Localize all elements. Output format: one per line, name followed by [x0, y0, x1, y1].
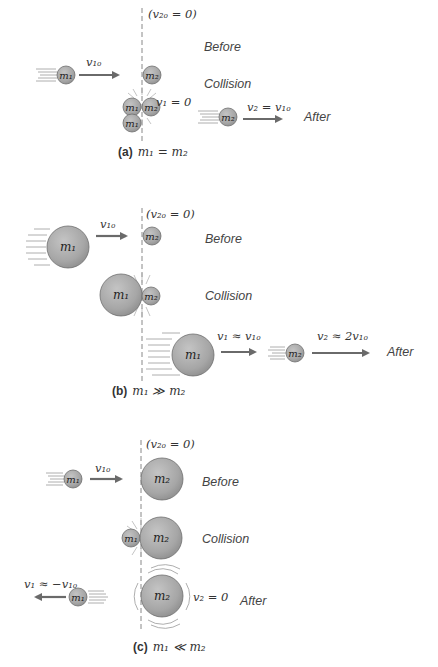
- state-collision-label: Collision: [204, 77, 251, 91]
- caption-letter: (b): [112, 384, 127, 398]
- v2-final-label: v₂ = v₁ₒ: [247, 100, 291, 114]
- panel-b-caption: (b)m₁ ≫ m₂: [112, 384, 185, 398]
- v2-final-label: v₂ = 0: [193, 590, 228, 604]
- state-before-label: Before: [204, 40, 241, 54]
- v1-initial-label: v₁ₒ: [100, 217, 116, 231]
- motion-lines-icon: [36, 69, 57, 81]
- v1-final-label: v₁ ≈ −v₁ₒ: [24, 577, 77, 591]
- v1-initial-label: v₁ₒ: [86, 55, 102, 69]
- state-after-label: After: [240, 594, 266, 608]
- motion-lines-icon: [268, 347, 286, 359]
- state-after-label: After: [304, 110, 330, 124]
- caption-letter: (a): [118, 145, 133, 159]
- ball-label-m1: m₁: [185, 348, 201, 362]
- ball-label-m1: m₁: [125, 102, 139, 113]
- ball-label-m1: m₁: [113, 288, 129, 302]
- caption-relation: m₁ ≫ m₂: [132, 384, 185, 398]
- ball-label-m2: m₂: [221, 112, 235, 123]
- caption-relation: m₁ ≪ m₂: [153, 640, 206, 654]
- state-before-label: Before: [202, 475, 239, 489]
- v2-initial-label: (v₂ₒ = 0): [146, 207, 195, 221]
- ball-label-m1: m₁: [59, 70, 73, 81]
- caption-letter: (c): [133, 640, 148, 654]
- ball-label-m1: m₁: [60, 240, 76, 254]
- motion-lines-icon: [88, 591, 108, 603]
- motion-lines-icon: [198, 111, 219, 123]
- ball-label-m1: m₁: [66, 474, 80, 485]
- state-before-label: Before: [205, 232, 242, 246]
- v1-initial-label: v₁ₒ: [95, 461, 111, 475]
- ball-label-m2: m₂: [154, 589, 170, 603]
- panel-c-caption: (c)m₁ ≪ m₂: [133, 640, 206, 654]
- v2-final-label: v₂ ≈ 2v₁ₒ: [317, 329, 368, 343]
- state-after-label: After: [387, 345, 413, 359]
- ball-label-m1: m₁: [71, 592, 85, 603]
- ball-label-m2: m₂: [288, 348, 302, 359]
- v1-final-label: v₁ = 0: [156, 95, 191, 109]
- motion-lines-icon: [26, 229, 50, 265]
- panel-a-caption: (a)m₁ = m₂: [118, 145, 188, 159]
- motion-lines-icon: [46, 473, 64, 485]
- v2-initial-label: (v₂ₒ = 0): [148, 7, 197, 21]
- ball-label-m1: m₁: [124, 533, 138, 544]
- ball-label-m2: m₂: [154, 472, 170, 486]
- ball-label-m2: m₂: [153, 531, 169, 545]
- ball-label-m2: m₂: [145, 231, 159, 242]
- ball-label-m2: m₂: [144, 291, 158, 302]
- state-collision-label: Collision: [205, 289, 252, 303]
- state-collision-label: Collision: [202, 532, 249, 546]
- caption-relation: m₁ = m₂: [138, 145, 188, 159]
- ball-label-m2: m₂: [145, 70, 159, 81]
- v2-initial-label: (v₂ₒ = 0): [146, 437, 195, 451]
- ball-label-m1: m₁: [125, 118, 139, 129]
- v1-final-label: v₁ ≈ v₁ₒ: [217, 329, 261, 343]
